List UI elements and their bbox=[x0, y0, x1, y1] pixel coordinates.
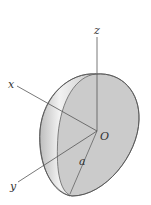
hemisphere-diagram: z x y O a bbox=[0, 0, 151, 205]
z-axis-label: z bbox=[93, 24, 100, 37]
x-axis-label: x bbox=[8, 78, 15, 91]
radius-label: a bbox=[79, 155, 86, 168]
y-axis-label: y bbox=[9, 180, 17, 193]
origin-label: O bbox=[100, 130, 109, 143]
